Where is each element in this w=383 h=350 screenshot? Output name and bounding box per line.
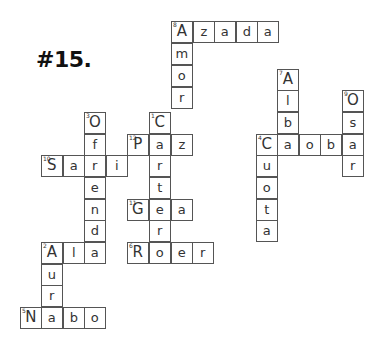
crossword-cell[interactable]: 11G bbox=[127, 199, 149, 221]
clue-number: 10 bbox=[43, 156, 51, 162]
crossword-cell[interactable]: a bbox=[277, 134, 299, 156]
crossword-cell[interactable]: r bbox=[41, 285, 63, 307]
cell-letter: R bbox=[133, 245, 143, 260]
crossword-cell[interactable]: 8A bbox=[171, 21, 193, 43]
crossword-cell[interactable]: 2A bbox=[41, 242, 63, 264]
cell-letter: o bbox=[263, 181, 271, 194]
cell-letter: n bbox=[91, 203, 99, 216]
cell-letter: a bbox=[156, 138, 164, 151]
crossword-cell[interactable]: u bbox=[256, 155, 278, 177]
crossword-cell[interactable]: o bbox=[84, 307, 106, 329]
crossword-cell[interactable]: z bbox=[171, 134, 193, 156]
cell-letter: O bbox=[89, 115, 101, 130]
crossword-cell[interactable]: r bbox=[149, 155, 171, 177]
cell-letter: C bbox=[155, 115, 165, 130]
cell-letter: m bbox=[175, 47, 188, 60]
cell-letter: a bbox=[70, 159, 78, 172]
crossword-cell[interactable]: l bbox=[277, 90, 299, 112]
crossword-cell[interactable]: 12P bbox=[127, 134, 149, 156]
crossword-cell[interactable]: a bbox=[257, 21, 279, 43]
cell-letter: i bbox=[115, 159, 119, 172]
crossword-cell[interactable]: d bbox=[236, 21, 258, 43]
crossword-cell[interactable]: o bbox=[171, 65, 193, 87]
cell-letter: e bbox=[156, 203, 164, 216]
crossword-cell[interactable]: r bbox=[342, 155, 364, 177]
crossword-cell[interactable]: 10S bbox=[41, 155, 63, 177]
cell-letter: a bbox=[264, 25, 272, 38]
crossword-cell[interactable]: r bbox=[171, 87, 193, 109]
clue-number: 3 bbox=[86, 113, 90, 119]
crossword-cell[interactable]: a bbox=[214, 21, 236, 43]
cell-letter: z bbox=[200, 25, 207, 38]
crossword-cell[interactable]: b bbox=[63, 307, 85, 329]
crossword-cell[interactable]: 6R bbox=[127, 242, 149, 264]
crossword-cell[interactable]: 5N bbox=[20, 307, 42, 329]
clue-number: 2 bbox=[43, 243, 47, 249]
crossword-cell[interactable]: o bbox=[256, 177, 278, 199]
cell-letter: r bbox=[157, 159, 162, 172]
cell-letter: t bbox=[157, 181, 162, 194]
crossword-cell[interactable]: l bbox=[63, 242, 85, 264]
cell-letter: r bbox=[179, 91, 184, 104]
crossword-cell[interactable]: d bbox=[84, 220, 106, 242]
cell-letter: l bbox=[72, 246, 76, 259]
crossword-cell[interactable]: r bbox=[149, 220, 171, 242]
clue-number: 9 bbox=[344, 91, 348, 97]
crossword-cell[interactable]: 4C bbox=[256, 134, 278, 156]
crossword-cell[interactable]: 7A bbox=[277, 69, 299, 91]
cell-letter: o bbox=[306, 138, 314, 151]
cell-letter: N bbox=[25, 310, 36, 325]
crossword-cell[interactable]: f bbox=[84, 134, 106, 156]
cell-letter: a bbox=[349, 138, 357, 151]
crossword-cell[interactable]: r bbox=[192, 242, 214, 264]
clue-number: 6 bbox=[129, 243, 133, 249]
cell-letter: d bbox=[91, 224, 99, 237]
crossword-cell[interactable]: t bbox=[149, 177, 171, 199]
crossword-cell[interactable]: a bbox=[84, 242, 106, 264]
cell-letter: e bbox=[91, 181, 99, 194]
crossword-cell[interactable]: 1C bbox=[149, 112, 171, 134]
crossword-cell[interactable]: a bbox=[256, 220, 278, 242]
cell-letter: A bbox=[177, 24, 187, 39]
cell-letter: o bbox=[178, 69, 186, 82]
cell-letter: a bbox=[48, 311, 56, 324]
crossword-cell[interactable]: r bbox=[84, 155, 106, 177]
crossword-cell[interactable]: 3O bbox=[84, 112, 106, 134]
crossword-cell[interactable]: 9O bbox=[342, 90, 364, 112]
crossword-cell[interactable]: o bbox=[149, 242, 171, 264]
cell-letter: b bbox=[70, 311, 78, 324]
crossword-cell[interactable]: e bbox=[149, 199, 171, 221]
cell-letter: r bbox=[157, 224, 162, 237]
cell-letter: o bbox=[156, 246, 164, 259]
cell-letter: s bbox=[349, 116, 356, 129]
cell-letter: a bbox=[221, 25, 229, 38]
crossword-cell[interactable]: a bbox=[149, 134, 171, 156]
crossword-cell[interactable]: s bbox=[342, 112, 364, 134]
crossword-cell[interactable]: i bbox=[106, 155, 128, 177]
cell-letter: a bbox=[91, 246, 99, 259]
crossword-cell[interactable]: z bbox=[193, 21, 215, 43]
crossword-cell[interactable]: n bbox=[84, 199, 106, 221]
crossword-cell[interactable]: a bbox=[342, 134, 364, 156]
cell-letter: A bbox=[283, 72, 293, 87]
crossword-cell[interactable]: e bbox=[171, 242, 193, 264]
cell-letter: O bbox=[347, 93, 359, 108]
crossword-cell[interactable]: u bbox=[41, 264, 63, 286]
crossword-cell[interactable]: o bbox=[299, 134, 321, 156]
cell-letter: l bbox=[286, 94, 290, 107]
crossword-cell[interactable]: a bbox=[171, 199, 193, 221]
crossword-cell[interactable]: e bbox=[84, 177, 106, 199]
cell-letter: d bbox=[243, 25, 251, 38]
cell-letter: r bbox=[92, 159, 97, 172]
crossword-cell[interactable]: a bbox=[41, 307, 63, 329]
crossword-cell[interactable]: t bbox=[256, 199, 278, 221]
cell-letter: A bbox=[47, 245, 57, 260]
crossword-cell[interactable]: m bbox=[171, 43, 193, 65]
clue-number: 8 bbox=[173, 22, 177, 28]
cell-letter: a bbox=[178, 203, 186, 216]
crossword-cell[interactable]: b bbox=[277, 112, 299, 134]
crossword-cell[interactable]: a bbox=[63, 155, 85, 177]
cell-letter: u bbox=[48, 268, 56, 281]
crossword-cell[interactable]: b bbox=[320, 134, 342, 156]
cell-letter: C bbox=[262, 137, 272, 152]
